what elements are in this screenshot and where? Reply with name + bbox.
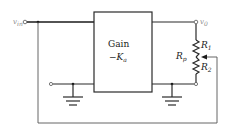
- circuit-diagram: vin Gain −Ka v0 R1 R2 Rp: [0, 0, 232, 131]
- output-ground-terminal: [194, 82, 197, 85]
- ground-icon: [63, 97, 83, 105]
- input-terminal: vin: [13, 18, 27, 27]
- gain-label: Gain: [108, 39, 129, 49]
- input-label: vin: [13, 18, 23, 27]
- input-ground-terminal: [49, 82, 52, 85]
- output-label: v0: [200, 18, 208, 27]
- resistor-r2-zigzag: [193, 57, 199, 74]
- r2-label: R2: [200, 62, 212, 73]
- resistor-r1-zigzag: [193, 40, 199, 57]
- wiper-arrow-icon: [201, 55, 207, 60]
- rp-label: Rp: [175, 51, 187, 63]
- ground-icon: [162, 97, 182, 105]
- r1-label: R1: [200, 40, 212, 51]
